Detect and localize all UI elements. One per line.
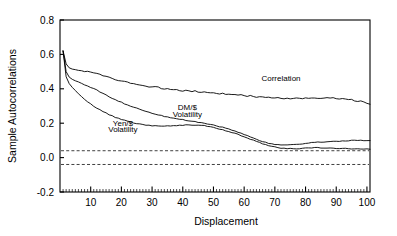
x-tick-label: 70 <box>269 197 281 208</box>
x-tick-label: 30 <box>147 197 159 208</box>
x-tick-label: 90 <box>331 197 343 208</box>
x-tick-label: 60 <box>239 197 251 208</box>
y-tick-label: 0.6 <box>40 49 54 60</box>
x-tick-label: 50 <box>208 197 220 208</box>
autocorrelation-line-chart: -0.20.00.20.40.60.8 10203040506070809010… <box>0 0 397 236</box>
series-annotation-label: Volatility <box>108 125 137 134</box>
series-annotation-label: Correlation <box>261 74 300 83</box>
y-tick-label: -0.2 <box>37 187 55 198</box>
x-tick-label: 100 <box>359 197 376 208</box>
y-tick-label: 0.0 <box>40 152 54 163</box>
y-tick-label: 0.4 <box>40 83 54 94</box>
chart-figure: -0.20.00.20.40.60.8 10203040506070809010… <box>0 0 397 236</box>
x-tick-label: 10 <box>85 197 97 208</box>
x-tick-label: 20 <box>116 197 128 208</box>
y-tick-label: 0.2 <box>40 118 54 129</box>
y-axis-title: Sample Autocorrelations <box>6 49 18 163</box>
y-tick-label: 0.8 <box>40 15 54 26</box>
x-tick-label: 80 <box>300 197 312 208</box>
x-tick-label: 40 <box>177 197 189 208</box>
x-axis-title: Displacement <box>194 215 258 227</box>
series-annotation-label: Volatility <box>173 110 202 119</box>
